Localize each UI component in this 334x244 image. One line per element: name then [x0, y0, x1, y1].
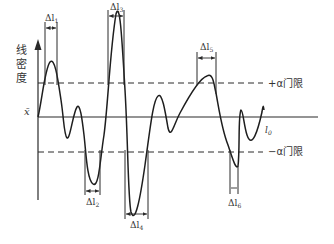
y-axis-label-char: 线	[16, 43, 27, 57]
y-axis	[35, 39, 42, 200]
y-axis-label: 线 密 度	[16, 43, 27, 85]
y-axis-label-char: 度	[16, 71, 27, 85]
interval-label: Δl6	[228, 198, 241, 209]
lower-threshold-label: −α门限	[268, 145, 303, 157]
upper-threshold-label: +α门限	[268, 77, 303, 89]
interval-l6: Δl6	[228, 150, 241, 209]
baseline-label: l0	[265, 125, 272, 136]
interval-label: Δl5	[200, 42, 213, 53]
y-axis-arrow-icon	[35, 39, 42, 50]
interval-label: Δl1	[45, 13, 58, 24]
interval-label: Δl2	[86, 197, 99, 208]
mean-label: x̄	[24, 106, 30, 117]
y-axis-label-char: 密	[16, 57, 27, 71]
signal-threshold-diagram: 线 密 度 x̄ l0 +α门限 −α门限 Δl1 Δl3 Δl5 Δl	[0, 0, 334, 244]
interval-label: Δl4	[130, 220, 143, 231]
interval-label: Δl3	[110, 2, 123, 13]
interval-l5: Δl5	[197, 42, 216, 94]
